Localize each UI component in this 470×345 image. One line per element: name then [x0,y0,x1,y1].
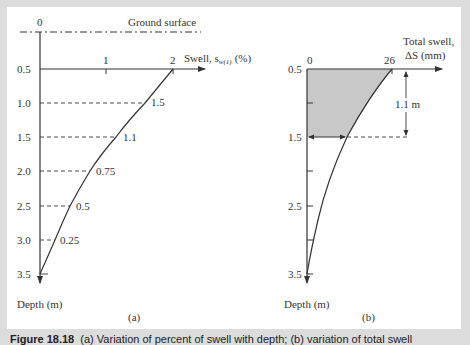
panel-a-origin-label: 0 [37,16,43,28]
total-swell-label-line2: ΔS (mm) [405,49,446,62]
panel-b-y-tick-3-5: 3.5 [288,268,302,280]
point-label-0-75: 0.75 [96,165,116,177]
point-label-1-5: 1.5 [151,96,165,108]
ground-surface-label: Ground surface [128,16,196,28]
swell-axis-label: Swell, sw(1)(%) [184,52,252,66]
y-tick-1-0: 1.0 [17,97,31,109]
panel-b-id: (b) [362,311,375,324]
panel-b-y-tick-1-5: 1.5 [288,131,302,143]
y-tick-1-5: 1.5 [17,131,31,143]
figure-caption: Figure 18.18 (a) Variation of percent of… [10,333,470,345]
panel-a: 0 Ground surface 1 2 Swell, sw(1)(%) 0.5… [17,16,252,324]
caption-label: Figure 18.18 [10,333,74,345]
total-swell-shaded-area [307,69,392,137]
x-tick-26: 26 [384,54,396,66]
panel-b: 0 26 Total swell, ΔS (mm) 0.5 1.5 2.5 3.… [284,35,454,324]
panel-b-y-tick-0-5: 0.5 [288,63,302,75]
y-tick-0-5: 0.5 [17,63,31,75]
point-label-1-1: 1.1 [123,131,137,143]
x-tick-1: 1 [103,54,109,66]
y-tick-3-5: 3.5 [17,268,31,280]
total-swell-label-line1: Total swell, [403,35,454,47]
x-tick-2: 2 [170,54,176,66]
panel-b-origin-label: 0 [307,54,313,66]
y-tick-3-0: 3.0 [17,234,31,246]
y-tick-2-5: 2.5 [17,200,31,212]
dashed-leaders [40,103,145,274]
panel-a-depth-label: Depth (m) [17,298,63,311]
y-tick-2-0: 2.0 [17,165,31,177]
panel-b-depth-label: Depth (m) [284,298,330,311]
caption-text: (a) Variation of percent of swell with d… [80,333,412,345]
panel-b-y-tick-2-5: 2.5 [288,200,302,212]
panel-a-id: (a) [128,311,141,324]
point-label-0-25: 0.25 [60,234,80,246]
dimension-label: 1.1 m [395,98,421,110]
point-label-0-5: 0.5 [76,200,90,212]
